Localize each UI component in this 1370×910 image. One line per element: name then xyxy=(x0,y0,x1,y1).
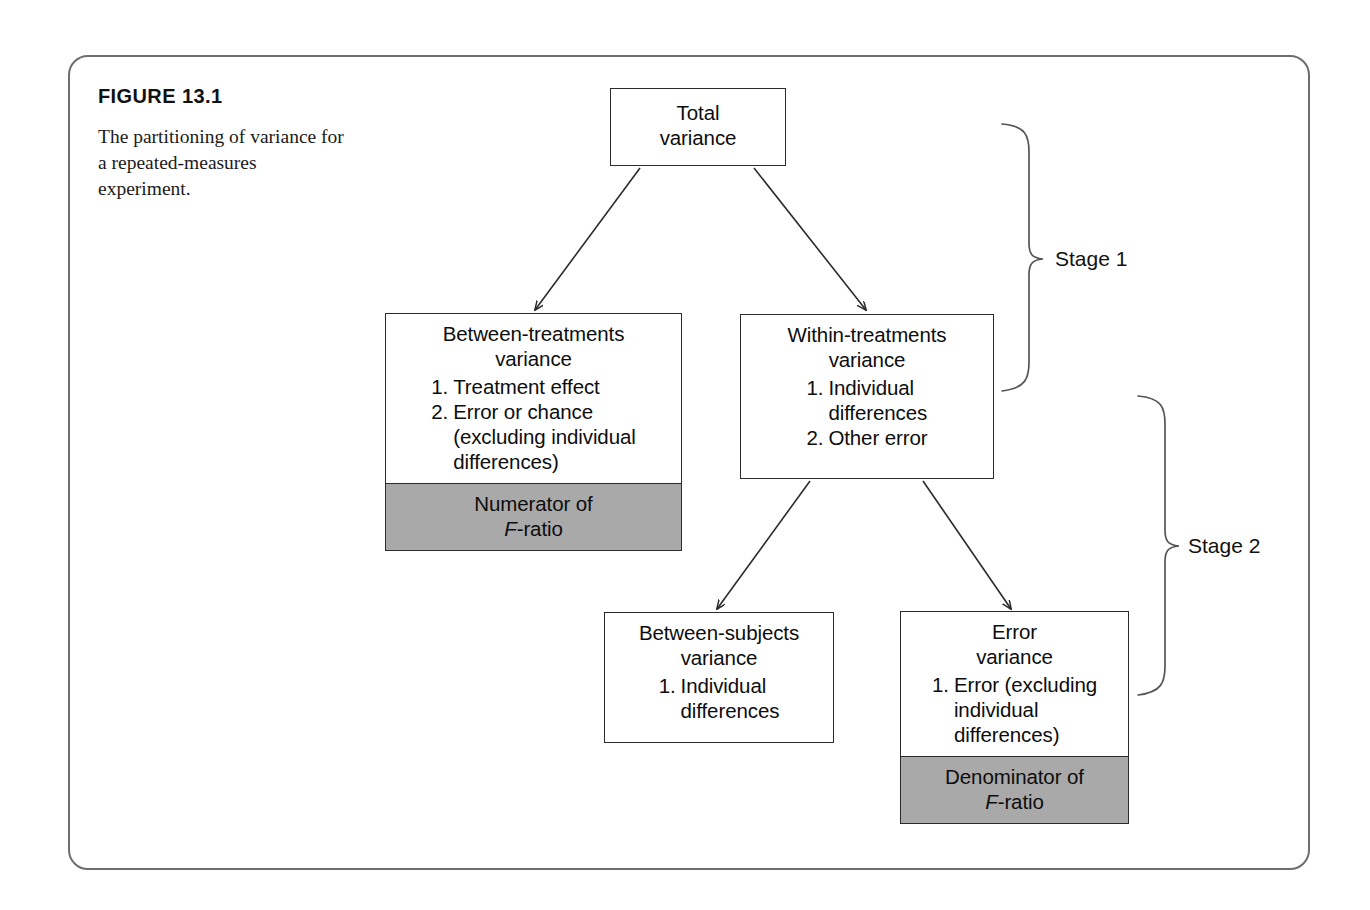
node-total-variance: Total variance xyxy=(610,88,786,166)
footer-line-1: Denominator of xyxy=(945,765,1084,788)
node-error-variance-footer: Denominator of F-ratio xyxy=(901,756,1128,823)
node-between-treatments-body: Between-treatments variance 1. Treatment… xyxy=(386,314,681,483)
list-item: 2. Other error xyxy=(806,425,927,450)
node-between-subjects-items: 1. Individual differences xyxy=(659,673,780,723)
node-error-variance: Error variance 1. Error (excluding indiv… xyxy=(900,611,1129,824)
node-between-treatments-variance: Between-treatments variance 1. Treatment… xyxy=(385,313,682,551)
node-within-treatments-variance: Within-treatments variance 1. Individual… xyxy=(740,314,994,479)
list-item-number: 2. xyxy=(431,399,453,474)
footer-line-2: -ratio xyxy=(998,790,1044,813)
node-total-variance-title: Total variance xyxy=(617,100,779,150)
list-item: 1. Error (excluding individual differenc… xyxy=(932,672,1097,747)
list-item-text: Individual differences xyxy=(828,375,927,425)
list-item-number: 1. xyxy=(659,673,681,723)
list-item-number: 2. xyxy=(806,425,828,450)
list-item: 1. Treatment effect xyxy=(431,374,635,399)
figure-caption-block: FIGURE 13.1 The partitioning of variance… xyxy=(98,85,348,202)
node-between-treatments-items: 1. Treatment effect 2. Error or chance (… xyxy=(431,374,635,474)
list-item-number: 1. xyxy=(431,374,453,399)
list-item-text: Treatment effect xyxy=(453,374,636,399)
node-between-treatments-title: Between-treatments variance xyxy=(392,321,675,371)
figure-number: FIGURE 13.1 xyxy=(98,85,348,108)
node-error-variance-title: Error variance xyxy=(907,619,1122,669)
node-total-variance-body: Total variance xyxy=(611,89,785,159)
footer-italic-symbol: F xyxy=(504,517,516,540)
node-between-treatments-footer: Numerator of F-ratio xyxy=(386,483,681,550)
node-between-subjects-body: Between-subjects variance 1. Individual … xyxy=(605,613,833,732)
node-within-treatments-items: 1. Individual differences 2. Other error xyxy=(806,375,927,450)
node-within-treatments-title: Within-treatments variance xyxy=(747,322,987,372)
list-item-text: Other error xyxy=(828,425,927,450)
node-error-variance-body: Error variance 1. Error (excluding indiv… xyxy=(901,612,1128,756)
node-between-subjects-title: Between-subjects variance xyxy=(611,620,827,670)
node-error-variance-items: 1. Error (excluding individual differenc… xyxy=(932,672,1097,747)
list-item-number: 1. xyxy=(806,375,828,425)
footer-line-1: Numerator of xyxy=(474,492,592,515)
list-item-text: Error or chance (excluding individual di… xyxy=(453,399,636,474)
footer-line-2: -ratio xyxy=(517,517,563,540)
node-within-treatments-body: Within-treatments variance 1. Individual… xyxy=(741,315,993,459)
list-item: 2. Error or chance (excluding individual… xyxy=(431,399,635,474)
list-item-text: Individual differences xyxy=(681,673,780,723)
list-item-number: 1. xyxy=(932,672,954,747)
list-item: 1. Individual differences xyxy=(806,375,927,425)
stage-2-label: Stage 2 xyxy=(1188,534,1260,558)
node-between-subjects-variance: Between-subjects variance 1. Individual … xyxy=(604,612,834,743)
stage-1-label: Stage 1 xyxy=(1055,247,1127,271)
list-item: 1. Individual differences xyxy=(659,673,780,723)
footer-italic-symbol: F xyxy=(985,790,997,813)
figure-caption-text: The partitioning of variance for a repea… xyxy=(98,124,348,202)
list-item-text: Error (excluding individual differences) xyxy=(954,672,1097,747)
